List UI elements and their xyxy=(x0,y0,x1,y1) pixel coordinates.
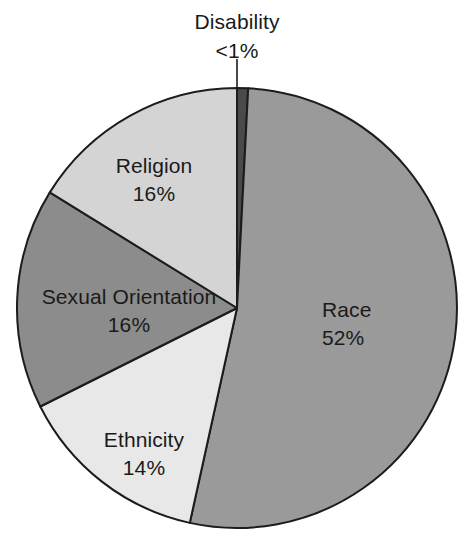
slice-label-sexual-orientation: Sexual Orientation 16% xyxy=(16,283,242,338)
slice-label-race-name: Race xyxy=(322,296,426,324)
slice-label-disability: Disability <1% xyxy=(0,8,474,64)
pie-chart-figure: Disability <1% Religion 16% Sexual Orien… xyxy=(0,0,474,557)
slice-label-sexual-orientation-name: Sexual Orientation xyxy=(16,283,242,311)
slice-label-religion: Religion 16% xyxy=(88,152,220,207)
slice-label-religion-value: 16% xyxy=(88,180,220,208)
slice-label-ethnicity-value: 14% xyxy=(78,454,210,482)
slice-label-race-value: 52% xyxy=(322,324,426,352)
slice-label-ethnicity: Ethnicity 14% xyxy=(78,426,210,481)
slice-label-sexual-orientation-value: 16% xyxy=(16,311,242,339)
slice-label-ethnicity-name: Ethnicity xyxy=(78,426,210,454)
slice-label-race: Race 52% xyxy=(322,296,426,351)
slice-label-religion-name: Religion xyxy=(88,152,220,180)
slice-label-disability-name: Disability xyxy=(0,8,474,36)
pie-chart-graphic xyxy=(0,0,474,557)
slice-label-disability-value: <1% xyxy=(0,37,474,65)
